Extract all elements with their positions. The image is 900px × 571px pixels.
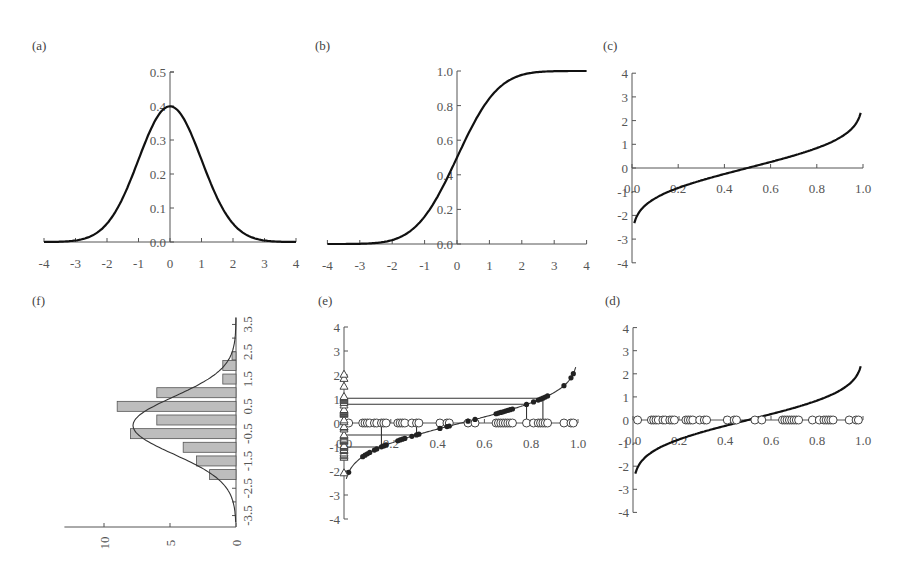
mapped-point — [374, 446, 379, 451]
mapped-point — [367, 450, 372, 455]
category-tick-label: -2.5 — [240, 478, 255, 499]
histogram-bar — [223, 374, 236, 384]
panel-f: (f)-3.5-2.5-1.5-0.50.51.52.53.51050 — [32, 293, 255, 550]
figure: (a)-4-3-2-1012340.00.10.20.30.40.5(b)-4-… — [0, 0, 900, 571]
histogram-bar — [210, 470, 236, 480]
y-tick-label: 2 — [623, 367, 630, 382]
y-tick-label: -4 — [618, 505, 629, 520]
y-tick-label: -3 — [618, 482, 629, 497]
normal-deviate-marker — [340, 382, 348, 389]
x-tick-label: -1 — [419, 258, 430, 273]
x-tick-label: 1.0 — [855, 181, 871, 196]
x-tick-label: 0.8 — [523, 436, 539, 451]
panel-label: (f) — [32, 293, 45, 308]
x-tick-label: 3 — [261, 256, 268, 271]
y-tick-label: -2 — [329, 464, 340, 479]
uniform-sample-marker — [795, 416, 803, 424]
y-tick-label: -4 — [329, 512, 340, 527]
y-tick-label: 3 — [622, 90, 629, 105]
y-tick-label: 0.0 — [437, 237, 453, 252]
mapped-point — [531, 399, 536, 404]
histogram-bar — [196, 456, 236, 466]
mapped-point — [465, 419, 470, 424]
mapped-point — [402, 436, 407, 441]
mapped-point — [545, 393, 550, 398]
x-tick-label: -4 — [39, 256, 50, 271]
histogram-bar — [157, 415, 236, 425]
x-tick-label: 0 — [454, 258, 461, 273]
uniform-sample-marker — [670, 416, 678, 424]
panel-d: (d)43210-1-2-3-40.00.20.40.60.81.0 — [605, 293, 871, 520]
value-tick-label: 5 — [163, 540, 178, 547]
uniform-sample-marker — [854, 416, 862, 424]
value-tick-label: 0 — [229, 540, 244, 547]
y-tick-label: 0 — [623, 413, 630, 428]
value-tick-label: 10 — [97, 537, 112, 550]
y-tick-label: 0.8 — [437, 99, 453, 114]
panel-label: (c) — [603, 38, 617, 53]
histogram-bar — [183, 442, 236, 452]
x-tick-label: 4 — [583, 258, 590, 273]
x-tick-label: 1 — [486, 258, 493, 273]
y-tick-label: 3 — [334, 344, 341, 359]
x-tick-label: -1 — [133, 256, 144, 271]
uniform-sample-marker — [703, 416, 711, 424]
histogram-bar — [130, 429, 236, 439]
x-tick-label: 0.4 — [716, 181, 733, 196]
x-tick-label: -4 — [322, 258, 333, 273]
x-tick-label: 1.0 — [855, 433, 871, 448]
panel-label: (d) — [605, 293, 620, 308]
x-tick-label: 0.4 — [429, 436, 446, 451]
mapped-point — [384, 442, 389, 447]
histogram-bar — [117, 401, 236, 411]
y-tick-label: 1 — [623, 390, 630, 405]
uniform-sample-marker — [544, 419, 552, 427]
y-tick-label: 0.6 — [437, 133, 454, 148]
mapped-point — [510, 406, 515, 411]
mapped-point — [561, 383, 566, 388]
x-tick-label: 0.0 — [625, 433, 641, 448]
x-tick-label: 0.8 — [809, 181, 825, 196]
uniform-sample-marker — [569, 419, 577, 427]
mapped-point — [524, 402, 529, 407]
uniform-sample-marker — [415, 419, 423, 427]
y-tick-label: 4 — [334, 320, 341, 335]
panel-a: (a)-4-3-2-1012340.00.10.20.30.40.5 — [32, 38, 300, 271]
x-tick-label: 0.6 — [762, 181, 779, 196]
y-tick-label: 0.5 — [150, 65, 166, 80]
y-tick-label: 0.4 — [150, 99, 167, 114]
mapped-point — [409, 434, 414, 439]
y-tick-label: 0.2 — [150, 167, 166, 182]
y-tick-label: -4 — [617, 256, 628, 271]
y-tick-label: 1 — [622, 137, 629, 152]
category-tick-label: 0.5 — [240, 398, 255, 414]
mapped-point — [447, 423, 452, 428]
y-tick-label: 3 — [623, 344, 630, 359]
panel-b: (b)-4-3-2-1012340.00.20.40.60.81.0 — [315, 38, 590, 273]
x-tick-label: 2 — [519, 258, 526, 273]
mapped-point — [472, 417, 477, 422]
uniform-sample-marker — [758, 416, 766, 424]
y-tick-label: 4 — [622, 66, 629, 81]
x-tick-label: 0 — [167, 256, 174, 271]
mapped-point — [416, 432, 421, 437]
panel-label: (b) — [315, 38, 330, 53]
y-tick-label: 0 — [334, 416, 341, 431]
y-tick-label: -2 — [617, 208, 628, 223]
panel-c: (c)43210-1-2-3-40.00.20.40.60.81.0 — [603, 38, 871, 271]
x-tick-label: 0.8 — [809, 433, 825, 448]
x-tick-label: 0.0 — [624, 181, 640, 196]
y-tick-label: -2 — [618, 459, 629, 474]
y-tick-label: 0.3 — [150, 133, 166, 148]
uniform-sample-marker — [733, 416, 741, 424]
x-tick-label: -2 — [387, 258, 398, 273]
category-tick-label: 2.5 — [240, 344, 255, 360]
category-tick-label: -1.5 — [240, 451, 255, 472]
y-tick-label: 0 — [622, 161, 629, 176]
x-tick-label: 0.6 — [476, 436, 493, 451]
uniform-sample-marker — [634, 416, 642, 424]
x-tick-label: 0.6 — [763, 433, 780, 448]
mapped-point — [437, 426, 442, 431]
x-tick-label: 1.0 — [570, 436, 586, 451]
y-tick-label: 1 — [334, 392, 341, 407]
